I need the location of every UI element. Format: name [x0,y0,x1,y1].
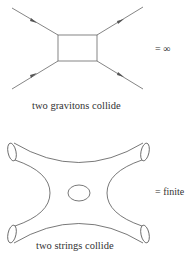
arrow-icon [117,72,124,77]
string-worldsheet-diagram [6,142,151,243]
tube-end-bottom-left [6,224,18,243]
tube-end-top-right [139,142,151,161]
worldsheet-left-edge [15,160,50,226]
string-caption: two strings collide [36,241,114,252]
worldsheet-top-edge [14,143,143,163]
worldsheet-right-edge [107,160,142,226]
incoming-graviton-bottom [12,61,58,89]
tube-end-top-left [6,142,18,161]
arrow-icon [117,19,124,24]
loop-box [58,35,97,61]
arrow-icon [30,18,37,23]
tube-end-bottom-right [139,224,151,243]
graviton-result-label: = ∞ [155,44,170,54]
worldsheet-hole [68,185,90,201]
graviton-caption: two gravitons collide [32,101,121,112]
arrow-icon [30,73,37,78]
string-result-label: = finite [155,187,184,197]
diagram-canvas [0,0,193,263]
